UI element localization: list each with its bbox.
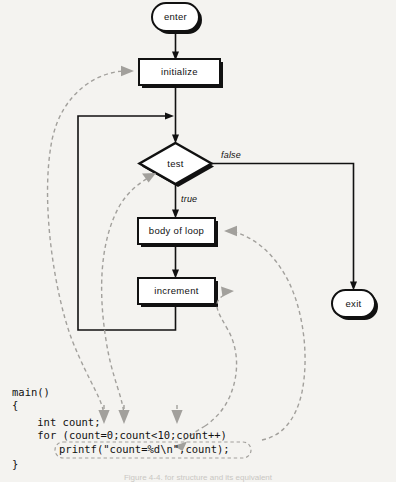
connector-junction-to-test — [172, 116, 179, 144]
branch-label-false: false — [221, 150, 241, 160]
connector-test-false-to-exit — [212, 164, 357, 291]
connector-test-true-to-body — [172, 183, 179, 219]
annotation-arrow-increment — [205, 287, 237, 427]
code-line-for: for (count=0;count<10;count++) — [12, 429, 227, 441]
node-enter[interactable]: enter — [152, 3, 202, 34]
node-body-of-loop-label: body of loop — [149, 225, 204, 236]
annotation-arrow-initialize — [48, 66, 134, 418]
figure-caption: Figure 4-4. for structure and its equiva… — [124, 473, 273, 482]
node-exit[interactable]: exit — [332, 290, 378, 320]
node-test[interactable]: test — [140, 143, 215, 187]
connector-body-to-increment — [172, 244, 179, 279]
node-increment-label: increment — [154, 285, 198, 296]
code-line-printf: printf("count=%d\n",count); — [59, 443, 230, 455]
code-line-declaration: int count; — [12, 416, 101, 428]
branch-label-true: true — [181, 194, 197, 204]
code-line-open-brace: { — [12, 399, 18, 411]
node-exit-label: exit — [346, 298, 362, 309]
annotation-dropper-init-expr — [118, 405, 129, 424]
code-line-main: main() — [12, 386, 50, 398]
connector-enter-to-initialize — [172, 33, 179, 61]
node-initialize-label: initialize — [161, 66, 198, 77]
annotation-dropper-test-expr — [171, 405, 182, 424]
flowchart-figure: false true enter initialize test body of… — [0, 0, 396, 482]
node-enter-label: enter — [164, 11, 187, 22]
node-body-of-loop[interactable]: body of loop — [138, 218, 218, 247]
node-test-label: test — [167, 158, 184, 169]
annotation-arrow-body — [224, 226, 305, 440]
node-increment[interactable]: increment — [138, 278, 218, 307]
node-initialize[interactable]: initialize — [139, 59, 223, 88]
code-line-close-brace: } — [12, 458, 18, 470]
code-block: main() { int count; for (count=0;count<1… — [12, 386, 251, 470]
